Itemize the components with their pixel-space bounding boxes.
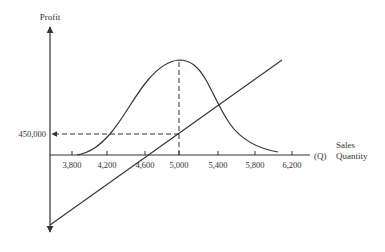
- marked-value-label: 450,000: [18, 129, 46, 139]
- tick-label-3800: 3,800: [62, 160, 81, 170]
- tick-label-6200: 6,200: [282, 160, 301, 170]
- tick-label-5400: 5,400: [208, 160, 227, 170]
- x-axis-symbol: (Q): [314, 151, 327, 161]
- tick-label-4600: 4,600: [135, 160, 154, 170]
- x-axis-label-line2: Quantity: [336, 151, 368, 161]
- tick-label-4200: 4,200: [97, 160, 116, 170]
- sales-distribution-curve: [77, 60, 278, 155]
- profit-vs-sales-chart: 3,800 4,200 4,600 5,000 5,400 5,800 6,20…: [0, 0, 385, 252]
- tick-label-5800: 5,800: [245, 160, 264, 170]
- y-axis-label: Profit: [40, 12, 61, 22]
- x-axis-label-line1: Sales: [336, 140, 355, 150]
- profit-line: [50, 60, 282, 225]
- tick-label-5000: 5,000: [169, 160, 188, 170]
